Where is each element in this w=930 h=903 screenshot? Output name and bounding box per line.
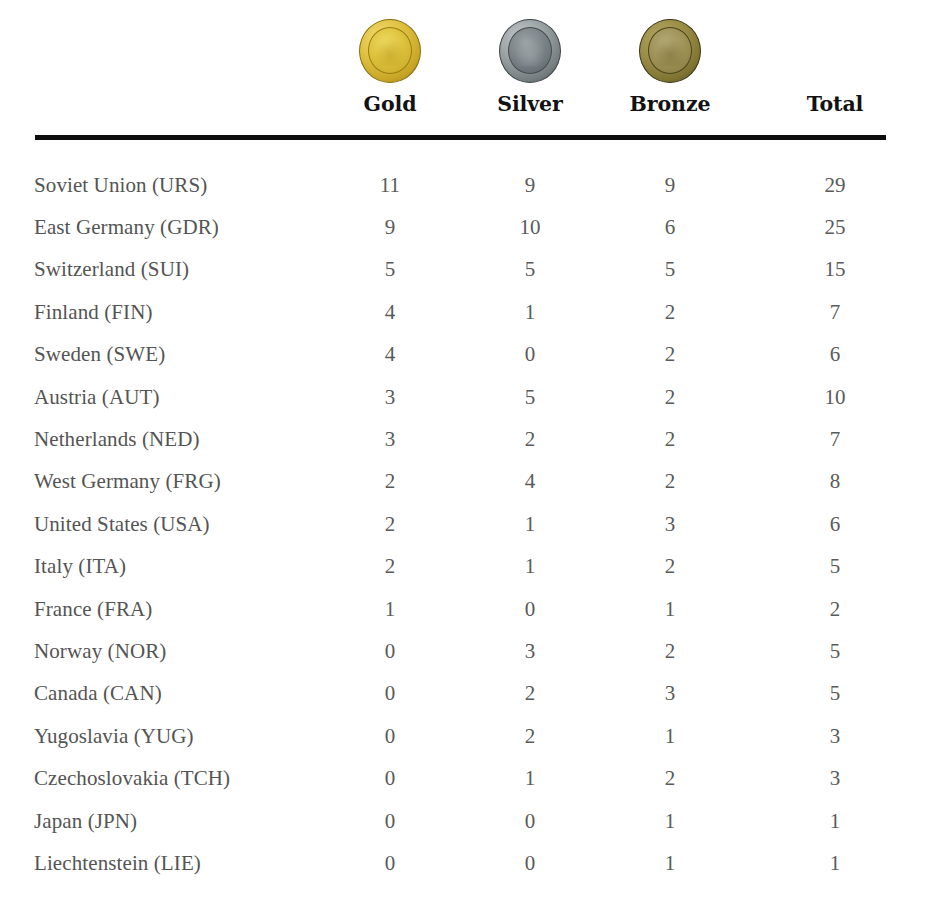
cell-bronze: 2 [600, 757, 740, 799]
column-header-silver[interactable]: Silver [460, 0, 600, 118]
header-rule-cell [0, 118, 930, 158]
table-row: United States (USA)2136 [0, 503, 930, 545]
cell-total: 7 [740, 418, 930, 460]
table-row: Switzerland (SUI)55515 [0, 249, 930, 291]
column-header-gold[interactable]: Gold [320, 0, 460, 118]
cell-silver: 9 [460, 158, 600, 206]
column-header-silver-label: Silver [497, 87, 563, 115]
column-header-bronze[interactable]: Bronze [600, 0, 740, 118]
cell-gold: 11 [320, 158, 460, 206]
cell-gold: 5 [320, 249, 460, 291]
medal-table: Gold Silver [0, 0, 930, 885]
cell-nation: Italy (ITA) [0, 546, 320, 588]
column-header-nation [0, 0, 320, 118]
table-row: Austria (AUT)35210 [0, 376, 930, 418]
cell-gold: 9 [320, 206, 460, 248]
cell-bronze: 3 [600, 673, 740, 715]
cell-gold: 0 [320, 842, 460, 884]
header-row: Gold Silver [0, 0, 930, 118]
cell-silver: 1 [460, 757, 600, 799]
cell-total: 1 [740, 842, 930, 884]
cell-silver: 1 [460, 546, 600, 588]
cell-silver: 0 [460, 334, 600, 376]
cell-gold: 3 [320, 418, 460, 460]
table-row: Finland (FIN)4127 [0, 291, 930, 333]
cell-nation: West Germany (FRG) [0, 461, 320, 503]
table-row: France (FRA)1012 [0, 588, 930, 630]
cell-bronze: 1 [600, 842, 740, 884]
cell-nation: Finland (FIN) [0, 291, 320, 333]
cell-silver: 2 [460, 673, 600, 715]
cell-nation: East Germany (GDR) [0, 206, 320, 248]
column-header-gold-label: Gold [364, 87, 417, 115]
table-row: West Germany (FRG)2428 [0, 461, 930, 503]
table-row: East Germany (GDR)910625 [0, 206, 930, 248]
cell-gold: 0 [320, 630, 460, 672]
cell-total: 5 [740, 673, 930, 715]
cell-bronze: 2 [600, 334, 740, 376]
column-header-total[interactable]: Total [740, 0, 930, 118]
cell-total: 2 [740, 588, 930, 630]
cell-bronze: 3 [600, 503, 740, 545]
cell-total: 1 [740, 800, 930, 842]
cell-gold: 0 [320, 715, 460, 757]
bronze-medal-icon [639, 19, 701, 83]
cell-total: 8 [740, 461, 930, 503]
cell-silver: 2 [460, 715, 600, 757]
cell-silver: 5 [460, 249, 600, 291]
cell-silver: 0 [460, 800, 600, 842]
cell-bronze: 6 [600, 206, 740, 248]
cell-bronze: 2 [600, 418, 740, 460]
cell-total: 29 [740, 158, 930, 206]
cell-bronze: 2 [600, 291, 740, 333]
cell-total: 3 [740, 715, 930, 757]
cell-total: 7 [740, 291, 930, 333]
table-row: Italy (ITA)2125 [0, 546, 930, 588]
gold-medal-icon [359, 19, 421, 83]
cell-nation: Netherlands (NED) [0, 418, 320, 460]
cell-nation: Liechtenstein (LIE) [0, 842, 320, 884]
cell-nation: United States (USA) [0, 503, 320, 545]
cell-nation: Sweden (SWE) [0, 334, 320, 376]
cell-bronze: 1 [600, 715, 740, 757]
cell-bronze: 1 [600, 588, 740, 630]
cell-silver: 3 [460, 630, 600, 672]
medal-table-page: Gold Silver [0, 0, 930, 903]
table-row: Yugoslavia (YUG)0213 [0, 715, 930, 757]
cell-total: 5 [740, 630, 930, 672]
cell-bronze: 2 [600, 376, 740, 418]
cell-nation: France (FRA) [0, 588, 320, 630]
header-divider [35, 135, 886, 140]
cell-gold: 3 [320, 376, 460, 418]
cell-bronze: 2 [600, 630, 740, 672]
table-row: Norway (NOR)0325 [0, 630, 930, 672]
cell-silver: 5 [460, 376, 600, 418]
cell-nation: Yugoslavia (YUG) [0, 715, 320, 757]
cell-bronze: 2 [600, 546, 740, 588]
cell-silver: 1 [460, 503, 600, 545]
cell-silver: 10 [460, 206, 600, 248]
table-row: Liechtenstein (LIE)0011 [0, 842, 930, 884]
table-body: Soviet Union (URS)119929East Germany (GD… [0, 158, 930, 885]
cell-silver: 1 [460, 291, 600, 333]
cell-bronze: 1 [600, 800, 740, 842]
cell-nation: Czechoslovakia (TCH) [0, 757, 320, 799]
table-row: Canada (CAN)0235 [0, 673, 930, 715]
cell-nation: Japan (JPN) [0, 800, 320, 842]
cell-silver: 4 [460, 461, 600, 503]
column-header-bronze-label: Bronze [630, 87, 711, 115]
silver-medal-icon [499, 19, 561, 83]
cell-silver: 0 [460, 588, 600, 630]
column-header-total-label: Total [807, 87, 864, 115]
cell-nation: Norway (NOR) [0, 630, 320, 672]
cell-gold: 4 [320, 334, 460, 376]
cell-nation: Switzerland (SUI) [0, 249, 320, 291]
cell-gold: 2 [320, 503, 460, 545]
table-header: Gold Silver [0, 0, 930, 158]
cell-bronze: 9 [600, 158, 740, 206]
cell-nation: Austria (AUT) [0, 376, 320, 418]
cell-gold: 0 [320, 757, 460, 799]
table-row: Czechoslovakia (TCH)0123 [0, 757, 930, 799]
header-rule-row [0, 118, 930, 158]
cell-silver: 0 [460, 842, 600, 884]
